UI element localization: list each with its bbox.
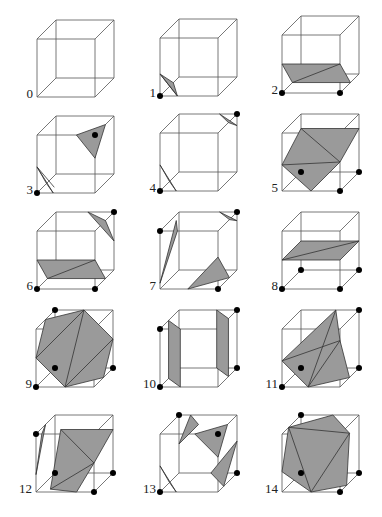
inside-vertex-marker <box>92 286 98 292</box>
inside-vertex-marker <box>34 286 40 292</box>
case-number-label: 0 <box>27 86 34 101</box>
cube-edge <box>37 212 56 231</box>
case-number-label: 2 <box>272 82 279 97</box>
inside-vertex-marker <box>298 365 304 371</box>
cube-edge <box>94 473 113 492</box>
inside-vertex-marker <box>33 431 39 437</box>
isosurface-triangle <box>220 114 237 126</box>
inside-vertex-marker <box>279 286 285 292</box>
cube-edge <box>218 19 237 38</box>
cube-edge <box>218 212 237 231</box>
cube-edge <box>282 270 301 289</box>
inside-vertex-marker <box>298 169 304 175</box>
isosurface-triangle <box>169 320 181 387</box>
cube-edge <box>95 20 114 39</box>
cube-edge <box>340 16 359 35</box>
cube-case-9: 9 <box>26 307 117 391</box>
inside-vertex-marker <box>337 489 343 495</box>
inside-vertex-marker <box>34 190 40 196</box>
cube-case-2: 2 <box>272 16 360 97</box>
case-number-label: 12 <box>19 481 32 496</box>
inside-vertex-marker <box>110 365 116 371</box>
inside-vertex-marker <box>234 307 240 313</box>
cube-case-3: 3 <box>27 116 115 197</box>
cube-case-1: 1 <box>150 19 238 100</box>
cube-edge <box>160 114 179 133</box>
inside-vertex-marker <box>110 470 116 476</box>
case-number-label: 10 <box>143 376 156 391</box>
inside-vertex-marker <box>279 90 285 96</box>
marching-cubes-diagram: 01234567891011121314 <box>0 0 382 517</box>
cube-case-14: 14 <box>265 412 362 496</box>
inside-vertex-marker <box>52 365 58 371</box>
cube-case-8: 8 <box>272 212 363 293</box>
cube-edge <box>282 310 301 329</box>
inside-vertex-marker <box>234 365 240 371</box>
inside-vertex-marker <box>157 326 163 332</box>
isosurface-triangle <box>37 167 53 193</box>
cube-edge <box>340 270 359 289</box>
cube-edge <box>160 19 179 38</box>
inside-vertex-marker <box>356 307 362 313</box>
inside-vertex-marker <box>52 307 58 313</box>
inside-vertex-marker <box>337 188 343 194</box>
inside-vertex-marker <box>356 267 362 273</box>
case-number-label: 14 <box>265 481 279 496</box>
cube-edge <box>218 77 237 96</box>
cube-edge <box>37 20 56 39</box>
cube-edge <box>160 415 179 434</box>
inside-vertex-marker <box>215 286 221 292</box>
case-number-label: 4 <box>150 180 157 195</box>
cube-edge <box>340 172 359 191</box>
inside-vertex-marker <box>298 412 304 418</box>
isosurface-triangle <box>160 165 176 191</box>
cube-edge <box>282 16 301 35</box>
cube-edge <box>37 116 56 135</box>
isosurface-triangle <box>179 415 199 444</box>
isosurface-triangle <box>195 425 228 458</box>
inside-vertex-marker <box>157 489 163 495</box>
cube-case-11: 11 <box>265 307 362 391</box>
cube-case-4: 4 <box>150 111 241 195</box>
case-number-label: 5 <box>272 180 279 195</box>
case-number-label: 6 <box>27 278 34 293</box>
cube-case-13: 13 <box>143 412 240 496</box>
cube-case-5: 5 <box>272 114 363 195</box>
case-number-label: 13 <box>143 481 156 496</box>
inside-vertex-marker <box>111 209 117 215</box>
cube-edge <box>282 114 301 133</box>
case-number-label: 8 <box>272 278 279 293</box>
isosurface-triangle <box>217 310 229 377</box>
inside-vertex-marker <box>157 228 163 234</box>
inside-vertex-marker <box>279 384 285 390</box>
inside-vertex-marker <box>157 384 163 390</box>
isosurface-triangle <box>282 415 350 492</box>
inside-vertex-marker <box>337 286 343 292</box>
cube-case-12: 12 <box>19 415 116 496</box>
inside-vertex-marker <box>91 489 97 495</box>
cube-edge <box>282 212 301 231</box>
inside-vertex-marker <box>234 209 240 215</box>
inside-vertex-marker <box>337 90 343 96</box>
inside-vertex-marker <box>176 412 182 418</box>
inside-vertex-marker <box>215 431 221 437</box>
inside-vertex-marker <box>157 188 163 194</box>
case-number-label: 7 <box>150 278 157 293</box>
cube-case-10: 10 <box>143 307 240 391</box>
cube-case-7: 7 <box>150 209 241 293</box>
inside-vertex-marker <box>33 384 39 390</box>
case-number-label: 9 <box>26 376 33 391</box>
triangulation-edge <box>160 74 177 96</box>
inside-vertex-marker <box>356 169 362 175</box>
inside-vertex-marker <box>298 267 304 273</box>
inside-vertex-marker <box>234 111 240 117</box>
inside-vertex-marker <box>92 132 98 138</box>
case-number-label: 3 <box>27 182 34 197</box>
case-number-label: 1 <box>150 85 157 100</box>
inside-vertex-marker <box>157 93 163 99</box>
inside-vertex-marker <box>298 470 304 476</box>
cube-edge <box>95 78 114 97</box>
cube-edge <box>340 212 359 231</box>
inside-vertex-marker <box>356 470 362 476</box>
isosurface-triangle <box>282 129 359 192</box>
